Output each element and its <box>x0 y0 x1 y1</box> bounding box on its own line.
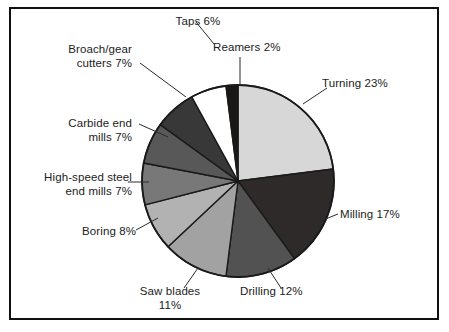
slice-label-reamers: Reamers 2% <box>213 40 313 54</box>
leader-line-broach <box>140 63 186 97</box>
slice-label-taps: Taps 6% <box>152 14 244 28</box>
pie-slice-turning <box>238 85 333 181</box>
pie-chart-figure: Taps 6% Reamers 2% Broach/gear cutters 7… <box>0 0 449 332</box>
slice-label-saw-blades: Saw blades 11% <box>128 284 212 312</box>
slice-label-high-speed-steel-end-mills: High-speed steel end mills 7% <box>12 170 132 198</box>
slice-label-carbide-end-mills: Carbide end mills 7% <box>38 116 132 144</box>
slice-label-drilling: Drilling 12% <box>240 284 332 298</box>
slice-label-turning: Turning 23% <box>322 76 426 90</box>
pie-slices-group <box>142 85 334 277</box>
slice-label-broach-gear-cutters: Broach/gear cutters 7% <box>38 42 132 70</box>
leader-line-turning <box>303 88 327 104</box>
slice-label-boring: Boring 8% <box>52 224 136 238</box>
slice-label-milling: Milling 17% <box>340 207 436 221</box>
